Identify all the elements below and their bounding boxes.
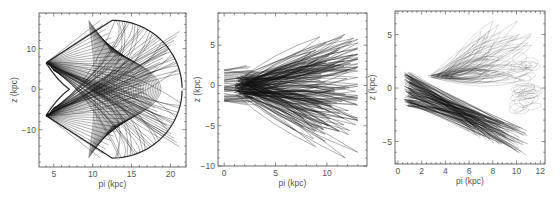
x-tick-label: 15 (127, 169, 137, 179)
y-axis-label: z (kpc) (367, 75, 377, 101)
y-tick-label: −5 (382, 137, 392, 147)
y-tick-label: −5 (205, 121, 215, 131)
x-axis-label: pi (kpc) (99, 179, 127, 189)
y-tick-label: 0 (210, 80, 215, 90)
x-tick-label: 5 (51, 169, 56, 179)
orbit-panel-2: 0510−10−505pi (kpc)z (kpc) (192, 13, 367, 188)
y-axis-label: z (kpc) (192, 77, 202, 103)
x-tick-label: 2 (419, 166, 424, 176)
x-tick-label: 5 (273, 168, 278, 178)
x-tick-label: 10 (88, 169, 98, 179)
y-tick-label: 0 (387, 83, 392, 93)
y-tick-label: −10 (22, 125, 37, 135)
x-tick-label: 0 (396, 166, 401, 176)
y-tick-label: −10 (201, 161, 216, 171)
x-tick-label: 6 (467, 166, 472, 176)
orbit-panel-3: 024681012−505pi (kpc)z (kpc) (367, 11, 545, 186)
x-tick-label: 4 (443, 166, 448, 176)
y-tick-label: 5 (387, 30, 392, 40)
y-tick-label: 10 (27, 44, 37, 54)
figure: 5101520−10010pi (kpc)z (kpc) 0510−10−505… (0, 0, 560, 197)
x-tick-label: 20 (166, 169, 176, 179)
y-axis-label: z (kpc) (9, 77, 19, 103)
y-tick-label: 5 (210, 40, 215, 50)
x-tick-label: 0 (222, 168, 227, 178)
orbit-traces (46, 20, 182, 158)
orbit-traces (224, 34, 358, 158)
x-tick-label: 8 (490, 166, 495, 176)
orbit-panel-1: 5101520−10010pi (kpc)z (kpc) (9, 13, 186, 189)
orbit-traces (404, 21, 543, 155)
x-axis-label: pi (kpc) (456, 176, 484, 186)
x-tick-label: 10 (512, 166, 522, 176)
x-axis-label: pi (kpc) (279, 178, 307, 188)
x-tick-label: 12 (536, 166, 546, 176)
x-tick-label: 10 (322, 168, 332, 178)
y-tick-label: 0 (31, 84, 36, 94)
